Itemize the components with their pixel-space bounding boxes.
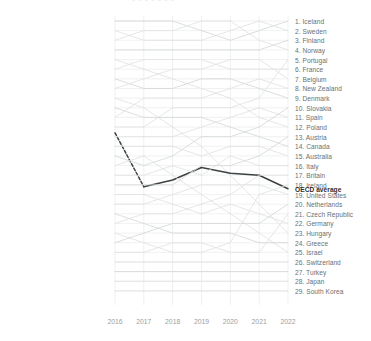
right-rank-label: 21. Czech Republic <box>295 210 353 217</box>
right-rank-label: 3. Finland <box>295 37 324 44</box>
right-rank-label: 26. Switzerland <box>295 259 341 266</box>
right-rank-label: 23. Hungary <box>295 230 331 237</box>
right-rank-label: 16. Italy <box>295 162 319 169</box>
right-rank-label: 7. Belgium <box>295 75 327 82</box>
right-rank-label: 9. Denmark <box>295 95 330 102</box>
right-rank-label: 29. South Korea <box>295 287 343 294</box>
right-rank-label: 15. Australia <box>295 152 332 159</box>
x-axis-tick-label: 2017 <box>136 318 151 325</box>
x-axis-tick-label: 2019 <box>194 318 209 325</box>
x-axis-tick-label: 2018 <box>165 318 180 325</box>
right-rank-label: 17. Britain <box>295 172 325 179</box>
x-axis-tick-label: 2020 <box>223 318 238 325</box>
right-rank-label: 20. Netherlands <box>295 201 342 208</box>
right-rank-label: 12. Poland <box>295 124 327 131</box>
x-axis-tick-label: 2021 <box>252 318 267 325</box>
x-axis-tick-label: 2022 <box>280 318 295 325</box>
right-rank-label: 2. Sweden <box>295 27 327 34</box>
right-rank-label: 10. Slovakia <box>295 104 332 111</box>
right-rank-label: 24. Greece <box>295 239 328 246</box>
right-rank-label: 11. Spain <box>295 114 323 121</box>
right-rank-label: 6. France <box>295 66 323 73</box>
right-rank-label: 13. Austria <box>295 133 327 140</box>
highlighted-series-line <box>115 133 144 187</box>
right-rank-label: 14. Canada <box>295 143 330 150</box>
right-rank-label: 4. Norway <box>295 46 325 53</box>
right-rank-label: 28. Japan <box>295 278 324 285</box>
right-rank-label: 27. Turkey <box>295 268 326 275</box>
right-rank-label: 19. United States <box>295 191 346 198</box>
right-rank-label: 22. Germany <box>295 220 334 227</box>
right-rank-label: 5. Portugal <box>295 56 327 63</box>
right-rank-label: 8. New Zealand <box>295 85 342 92</box>
right-rank-label: 1. Iceland <box>295 18 324 25</box>
right-rank-label: 25. Israel <box>295 249 323 256</box>
bump-chart: - - - - - - - 1. Iceland2. Sweden3. Norw… <box>0 0 371 341</box>
x-axis-tick-label: 2016 <box>107 318 122 325</box>
